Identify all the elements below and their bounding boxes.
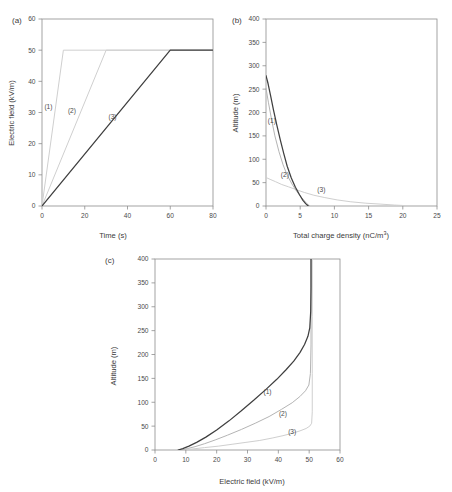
y-tick-label: 40 xyxy=(28,78,36,85)
y-tick-label: 250 xyxy=(248,86,259,93)
curve-label-1: (1) xyxy=(268,117,276,125)
y-tick-label: 300 xyxy=(248,62,259,69)
panel-b-curves: (1)(2)(3) xyxy=(266,76,404,206)
panel-c: (c) 010203040506005010015020025030035040… xyxy=(80,246,452,492)
y-tick-label: 10 xyxy=(28,171,36,178)
panel-b-xaxis-title: Total charge density (nC/m3) xyxy=(293,230,389,240)
x-tick-label: 60 xyxy=(336,456,344,463)
panel-a-xaxis-title: Time (s) xyxy=(99,231,127,240)
y-tick-label: 50 xyxy=(252,179,260,186)
x-tick-label: 15 xyxy=(365,212,373,219)
y-tick-label: 400 xyxy=(248,15,259,22)
x-tick-label: 50 xyxy=(305,456,313,463)
x-tick-label: 30 xyxy=(244,456,252,463)
x-tick-label: 0 xyxy=(40,212,44,219)
curve-label-3: (3) xyxy=(109,113,117,121)
panel-b-label: (b) xyxy=(232,16,242,25)
panel-c-svg: (c) 010203040506005010015020025030035040… xyxy=(80,246,452,492)
y-tick-label: 200 xyxy=(137,351,148,358)
curve-1 xyxy=(42,50,213,206)
y-tick-label: 0 xyxy=(145,446,149,453)
curve-2 xyxy=(42,50,213,206)
curve-label-2: (2) xyxy=(281,171,289,179)
y-tick-label: 0 xyxy=(32,202,36,209)
y-tick-label: 250 xyxy=(137,327,148,334)
y-tick-label: 60 xyxy=(28,15,36,22)
curve-2 xyxy=(181,259,311,450)
y-tick-label: 150 xyxy=(137,375,148,382)
curve-1 xyxy=(178,259,311,450)
y-tick-label: 200 xyxy=(248,109,259,116)
panel-b-axes: 0510152025050100150200250300350400 xyxy=(248,15,441,218)
y-tick-label: 350 xyxy=(137,279,148,286)
panel-b-svg: (b) 0510152025050100150200250300350400 (… xyxy=(226,0,452,246)
panel-b-yaxis-title: Altitude (m) xyxy=(231,93,240,132)
y-tick-label: 50 xyxy=(141,423,149,430)
x-tick-label: 40 xyxy=(275,456,283,463)
x-tick-label: 5 xyxy=(298,212,302,219)
curve-label-3: (3) xyxy=(317,186,325,194)
curve-3 xyxy=(183,259,313,450)
x-tick-label: 0 xyxy=(264,212,268,219)
curve-label-1: (1) xyxy=(44,103,52,111)
y-tick-label: 20 xyxy=(28,140,36,147)
x-tick-label: 25 xyxy=(433,212,441,219)
y-tick-label: 400 xyxy=(137,255,148,262)
curve-label-2: (2) xyxy=(279,410,287,418)
x-tick-label: 20 xyxy=(213,456,221,463)
y-tick-label: 0 xyxy=(256,202,260,209)
y-tick-label: 350 xyxy=(248,39,259,46)
panel-b: (b) 0510152025050100150200250300350400 (… xyxy=(226,0,452,246)
y-tick-label: 300 xyxy=(137,303,148,310)
x-tick-label: 80 xyxy=(209,212,217,219)
panel-c-label: (c) xyxy=(105,256,115,265)
figure-container: (a) 0204060800102030405060 (1)(2)(3) Tim… xyxy=(0,0,452,492)
panel-c-xaxis-title: Electric field (kV/m) xyxy=(219,477,285,486)
panel-c-axes: 0102030405060050100150200250300350400 xyxy=(137,255,344,462)
panel-a-curves: (1)(2)(3) xyxy=(42,50,213,206)
x-tick-label: 20 xyxy=(81,212,89,219)
curve-label-3: (3) xyxy=(288,428,296,436)
panel-a: (a) 0204060800102030405060 (1)(2)(3) Tim… xyxy=(0,0,226,246)
y-tick-label: 100 xyxy=(248,156,259,163)
x-tick-label: 10 xyxy=(331,212,339,219)
panel-a-yaxis-title: Electric field (kV/m) xyxy=(7,80,16,146)
curve-label-1: (1) xyxy=(264,388,272,396)
x-tick-label: 10 xyxy=(182,456,190,463)
x-tick-label: 0 xyxy=(153,456,157,463)
panel-a-svg: (a) 0204060800102030405060 (1)(2)(3) Tim… xyxy=(0,0,226,246)
panel-b-xaxis-tail: ) xyxy=(386,231,389,240)
y-tick-label: 50 xyxy=(28,47,36,54)
y-tick-label: 30 xyxy=(28,109,36,116)
curve-3 xyxy=(42,50,213,206)
panel-c-yaxis-title: Altitude (m) xyxy=(109,346,118,385)
y-tick-label: 150 xyxy=(248,132,259,139)
panel-a-label: (a) xyxy=(12,16,22,25)
x-tick-label: 40 xyxy=(124,212,132,219)
curve-3 xyxy=(266,177,404,205)
y-tick-label: 100 xyxy=(137,399,148,406)
x-tick-label: 60 xyxy=(167,212,175,219)
x-tick-label: 20 xyxy=(399,212,407,219)
panel-b-xaxis-main: Total charge density (nC/m xyxy=(293,231,383,240)
panel-c-curves: (1)(2)(3) xyxy=(178,259,312,450)
curve-label-2: (2) xyxy=(68,107,76,115)
